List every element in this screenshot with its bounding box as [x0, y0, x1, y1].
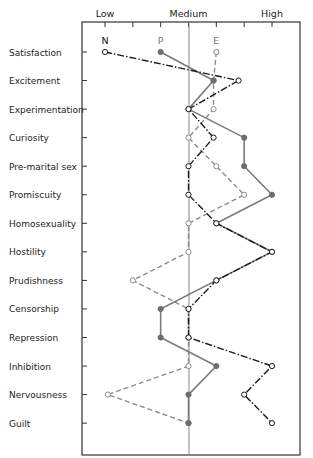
data-point	[186, 421, 191, 426]
data-point	[186, 249, 191, 254]
data-point	[186, 135, 191, 140]
data-point	[186, 306, 191, 311]
profile-chart: LowMediumHigh SatisfactionExcitementExpe…	[0, 0, 313, 458]
data-point	[186, 107, 191, 112]
data-point	[242, 135, 247, 140]
data-point	[211, 107, 216, 112]
category-label: Nervousness	[9, 390, 67, 400]
x-tick-label-high: High	[261, 8, 283, 19]
category-label: Excitement	[9, 76, 60, 86]
data-point	[214, 164, 219, 169]
series-label-n: N	[101, 35, 108, 46]
category-label: Inhibition	[9, 362, 51, 372]
series-line	[108, 52, 244, 423]
data-point	[186, 363, 191, 368]
data-point	[242, 192, 247, 197]
category-label: Pre-marital sex	[9, 162, 78, 172]
category-label: Guilt	[9, 419, 31, 429]
data-point	[186, 192, 191, 197]
data-point	[269, 192, 274, 197]
data-point	[186, 335, 191, 340]
data-point	[236, 78, 241, 83]
series-label-p: P	[158, 35, 164, 46]
category-labels: SatisfactionExcitementExperimentationCur…	[9, 48, 87, 429]
category-label: Curiosity	[9, 133, 49, 143]
data-point	[130, 278, 135, 283]
data-point	[102, 49, 107, 54]
data-point	[242, 392, 247, 397]
data-point	[158, 335, 163, 340]
data-point	[214, 49, 219, 54]
data-point	[158, 306, 163, 311]
data-point	[214, 363, 219, 368]
data-point	[214, 221, 219, 226]
category-label: Hostility	[9, 247, 47, 257]
data-point	[214, 278, 219, 283]
category-label: Satisfaction	[9, 48, 62, 58]
category-label: Experimentation	[9, 105, 84, 115]
series-label-e: E	[213, 35, 219, 46]
data-point	[158, 49, 163, 54]
x-axis-labels: LowMediumHigh	[96, 8, 283, 19]
category-label: Promiscuity	[9, 190, 62, 200]
series-lines: EPN	[101, 35, 274, 426]
category-label: Repression	[9, 333, 58, 343]
x-tick-label-medium: Medium	[170, 8, 208, 19]
data-point	[269, 421, 274, 426]
data-point	[211, 135, 216, 140]
data-point	[269, 363, 274, 368]
category-label: Homosexuality	[9, 219, 77, 229]
data-point	[105, 392, 110, 397]
data-point	[186, 392, 191, 397]
category-label: Censorship	[9, 304, 59, 314]
data-point	[211, 78, 216, 83]
data-point	[269, 249, 274, 254]
plot-frame	[82, 22, 300, 455]
x-tick-label-low: Low	[96, 8, 115, 19]
data-point	[186, 221, 191, 226]
data-point	[242, 164, 247, 169]
series-e: E	[105, 35, 247, 426]
data-point	[186, 164, 191, 169]
category-label: Prudishness	[9, 276, 63, 286]
